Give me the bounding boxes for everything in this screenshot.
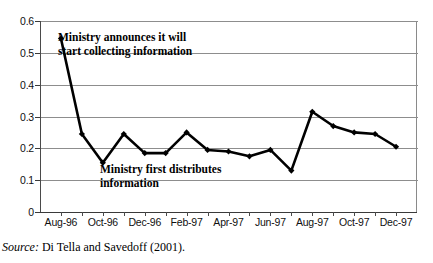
y-tick-mark bbox=[35, 117, 40, 118]
annotation-ministry-distributes: Ministry first distributes information bbox=[100, 163, 221, 190]
x-tick-mark bbox=[333, 212, 334, 216]
x-tick-mark bbox=[291, 212, 292, 216]
x-tick-label: Dec-96 bbox=[128, 216, 161, 228]
x-tick-label: Dec-97 bbox=[380, 216, 413, 228]
y-tick-mark bbox=[35, 21, 40, 22]
y-tick-label: 0.5 bbox=[0, 48, 34, 58]
x-tick-mark bbox=[270, 212, 271, 216]
x-tick-label: Aug-97 bbox=[296, 216, 329, 228]
x-tick-mark bbox=[82, 212, 83, 216]
x-tick-mark bbox=[187, 212, 188, 216]
x-tick-mark bbox=[354, 212, 355, 216]
x-tick-label: Apr-97 bbox=[213, 216, 243, 228]
gridline bbox=[41, 117, 418, 118]
x-tick-label: Oct-96 bbox=[88, 216, 118, 228]
x-tick-mark bbox=[61, 212, 62, 216]
x-tick-mark bbox=[208, 212, 209, 216]
y-tick-mark bbox=[35, 53, 40, 54]
y-tick-label: 0.4 bbox=[0, 80, 34, 90]
x-tick-label: Oct-97 bbox=[339, 216, 369, 228]
chart-figure: 00.10.20.30.40.50.6 Aug-96Oct-96Dec-96Fe… bbox=[0, 0, 433, 263]
x-tick-mark bbox=[145, 212, 146, 216]
x-tick-mark bbox=[166, 212, 167, 216]
x-tick-mark bbox=[375, 212, 376, 216]
y-tick-mark bbox=[35, 180, 40, 181]
source-citation: Di Tella and Savedoff (2001). bbox=[39, 240, 185, 254]
x-tick-mark bbox=[312, 212, 313, 216]
annotation-ministry-announces: Ministry announces it will start collect… bbox=[58, 31, 192, 58]
y-tick-mark bbox=[35, 85, 40, 86]
y-tick-mark bbox=[35, 148, 40, 149]
x-tick-mark bbox=[249, 212, 250, 216]
y-tick-label: 0.6 bbox=[0, 16, 34, 26]
x-tick-label: Feb-97 bbox=[171, 216, 203, 228]
x-tick-mark bbox=[124, 212, 125, 216]
gridline bbox=[41, 148, 418, 149]
gridline bbox=[41, 21, 418, 22]
y-tick-label: 0.2 bbox=[0, 143, 34, 153]
x-tick-mark bbox=[103, 212, 104, 216]
source-label: Source: bbox=[2, 240, 39, 254]
y-tick-label: 0.3 bbox=[0, 112, 34, 122]
x-tick-mark bbox=[396, 212, 397, 216]
gridline bbox=[41, 85, 418, 86]
y-tick-label: 0.1 bbox=[0, 175, 34, 185]
x-tick-label: Aug-96 bbox=[45, 216, 78, 228]
x-tick-mark bbox=[229, 212, 230, 216]
source-note: Source: Di Tella and Savedoff (2001). bbox=[2, 240, 185, 254]
gridline bbox=[41, 180, 418, 181]
x-tick-label: Jun-97 bbox=[255, 216, 286, 228]
y-tick-mark bbox=[35, 212, 40, 213]
y-tick-label: 0 bbox=[0, 207, 34, 217]
